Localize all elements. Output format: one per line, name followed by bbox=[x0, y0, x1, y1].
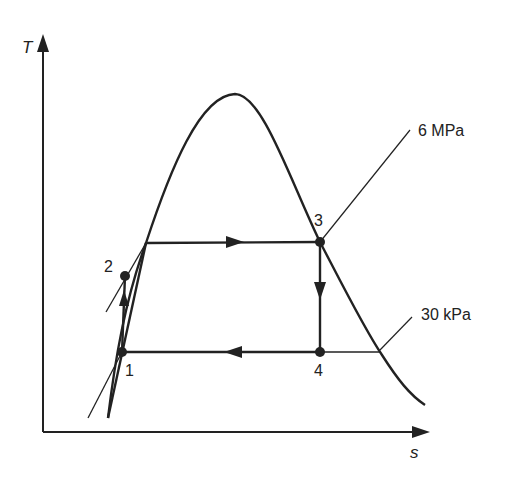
arrow-up-icon bbox=[119, 290, 129, 306]
x-axis-label: s bbox=[410, 443, 419, 462]
state-label-4: 4 bbox=[314, 362, 323, 379]
y-axis-arrow-icon bbox=[37, 34, 49, 52]
saturation-dome bbox=[108, 94, 425, 418]
isobar-label-6mpa: 6 MPa bbox=[418, 122, 464, 139]
y-axis-label: T bbox=[22, 38, 34, 57]
t-s-diagram: T s 1 2 3 4 6 MPa 30 kPa bbox=[0, 0, 514, 477]
state-label-2: 2 bbox=[104, 258, 113, 275]
state-label-3: 3 bbox=[314, 212, 323, 229]
arrow-down-icon bbox=[314, 282, 326, 300]
state-point-1 bbox=[117, 347, 127, 357]
leader-30kpa bbox=[380, 317, 412, 350]
isobar-label-30kpa: 30 kPa bbox=[421, 306, 471, 323]
arrow-right-icon bbox=[226, 236, 244, 248]
state-point-3 bbox=[315, 237, 325, 247]
x-axis-arrow-icon bbox=[412, 426, 430, 438]
leader-6mpa bbox=[320, 130, 410, 242]
state-label-1: 1 bbox=[125, 362, 134, 379]
state-point-2 bbox=[120, 271, 130, 281]
state-point-4 bbox=[315, 347, 325, 357]
isobar-30kpa-liquid bbox=[88, 352, 122, 418]
liquid-isobar-line bbox=[108, 243, 146, 418]
arrow-left-icon bbox=[224, 346, 242, 358]
